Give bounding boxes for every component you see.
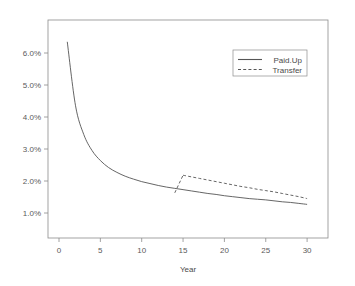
x-axis-ticks	[59, 238, 307, 242]
legend-label-paid-up: Paid.Up	[274, 56, 303, 65]
x-tick-label: 0	[57, 246, 62, 255]
legend-label-transfer: Transfer	[273, 66, 303, 75]
y-axis-ticks	[44, 53, 48, 213]
y-tick-label: 3.0%	[23, 145, 41, 154]
series-line-transfer	[175, 175, 307, 198]
x-tick-label: 10	[137, 246, 146, 255]
x-tick-label: 20	[220, 246, 229, 255]
y-axis-tick-labels: 1.0%2.0%3.0%4.0%5.0%6.0%	[23, 49, 41, 218]
x-tick-label: 15	[179, 246, 188, 255]
x-tick-label: 5	[98, 246, 103, 255]
line-chart-canvas: 1.0%2.0%3.0%4.0%5.0%6.0% 051015202530 Ye…	[0, 0, 355, 286]
x-tick-label: 25	[261, 246, 270, 255]
y-tick-label: 6.0%	[23, 49, 41, 58]
x-axis-title: Year	[180, 265, 197, 274]
y-tick-label: 5.0%	[23, 81, 41, 90]
chart-figure: 1.0%2.0%3.0%4.0%5.0%6.0% 051015202530 Ye…	[0, 0, 355, 286]
y-tick-label: 4.0%	[23, 113, 41, 122]
x-tick-label: 30	[303, 246, 312, 255]
x-axis-tick-labels: 051015202530	[57, 246, 312, 255]
legend: Paid.Up Transfer	[233, 50, 307, 76]
y-tick-label: 1.0%	[23, 209, 41, 218]
y-tick-label: 2.0%	[23, 177, 41, 186]
